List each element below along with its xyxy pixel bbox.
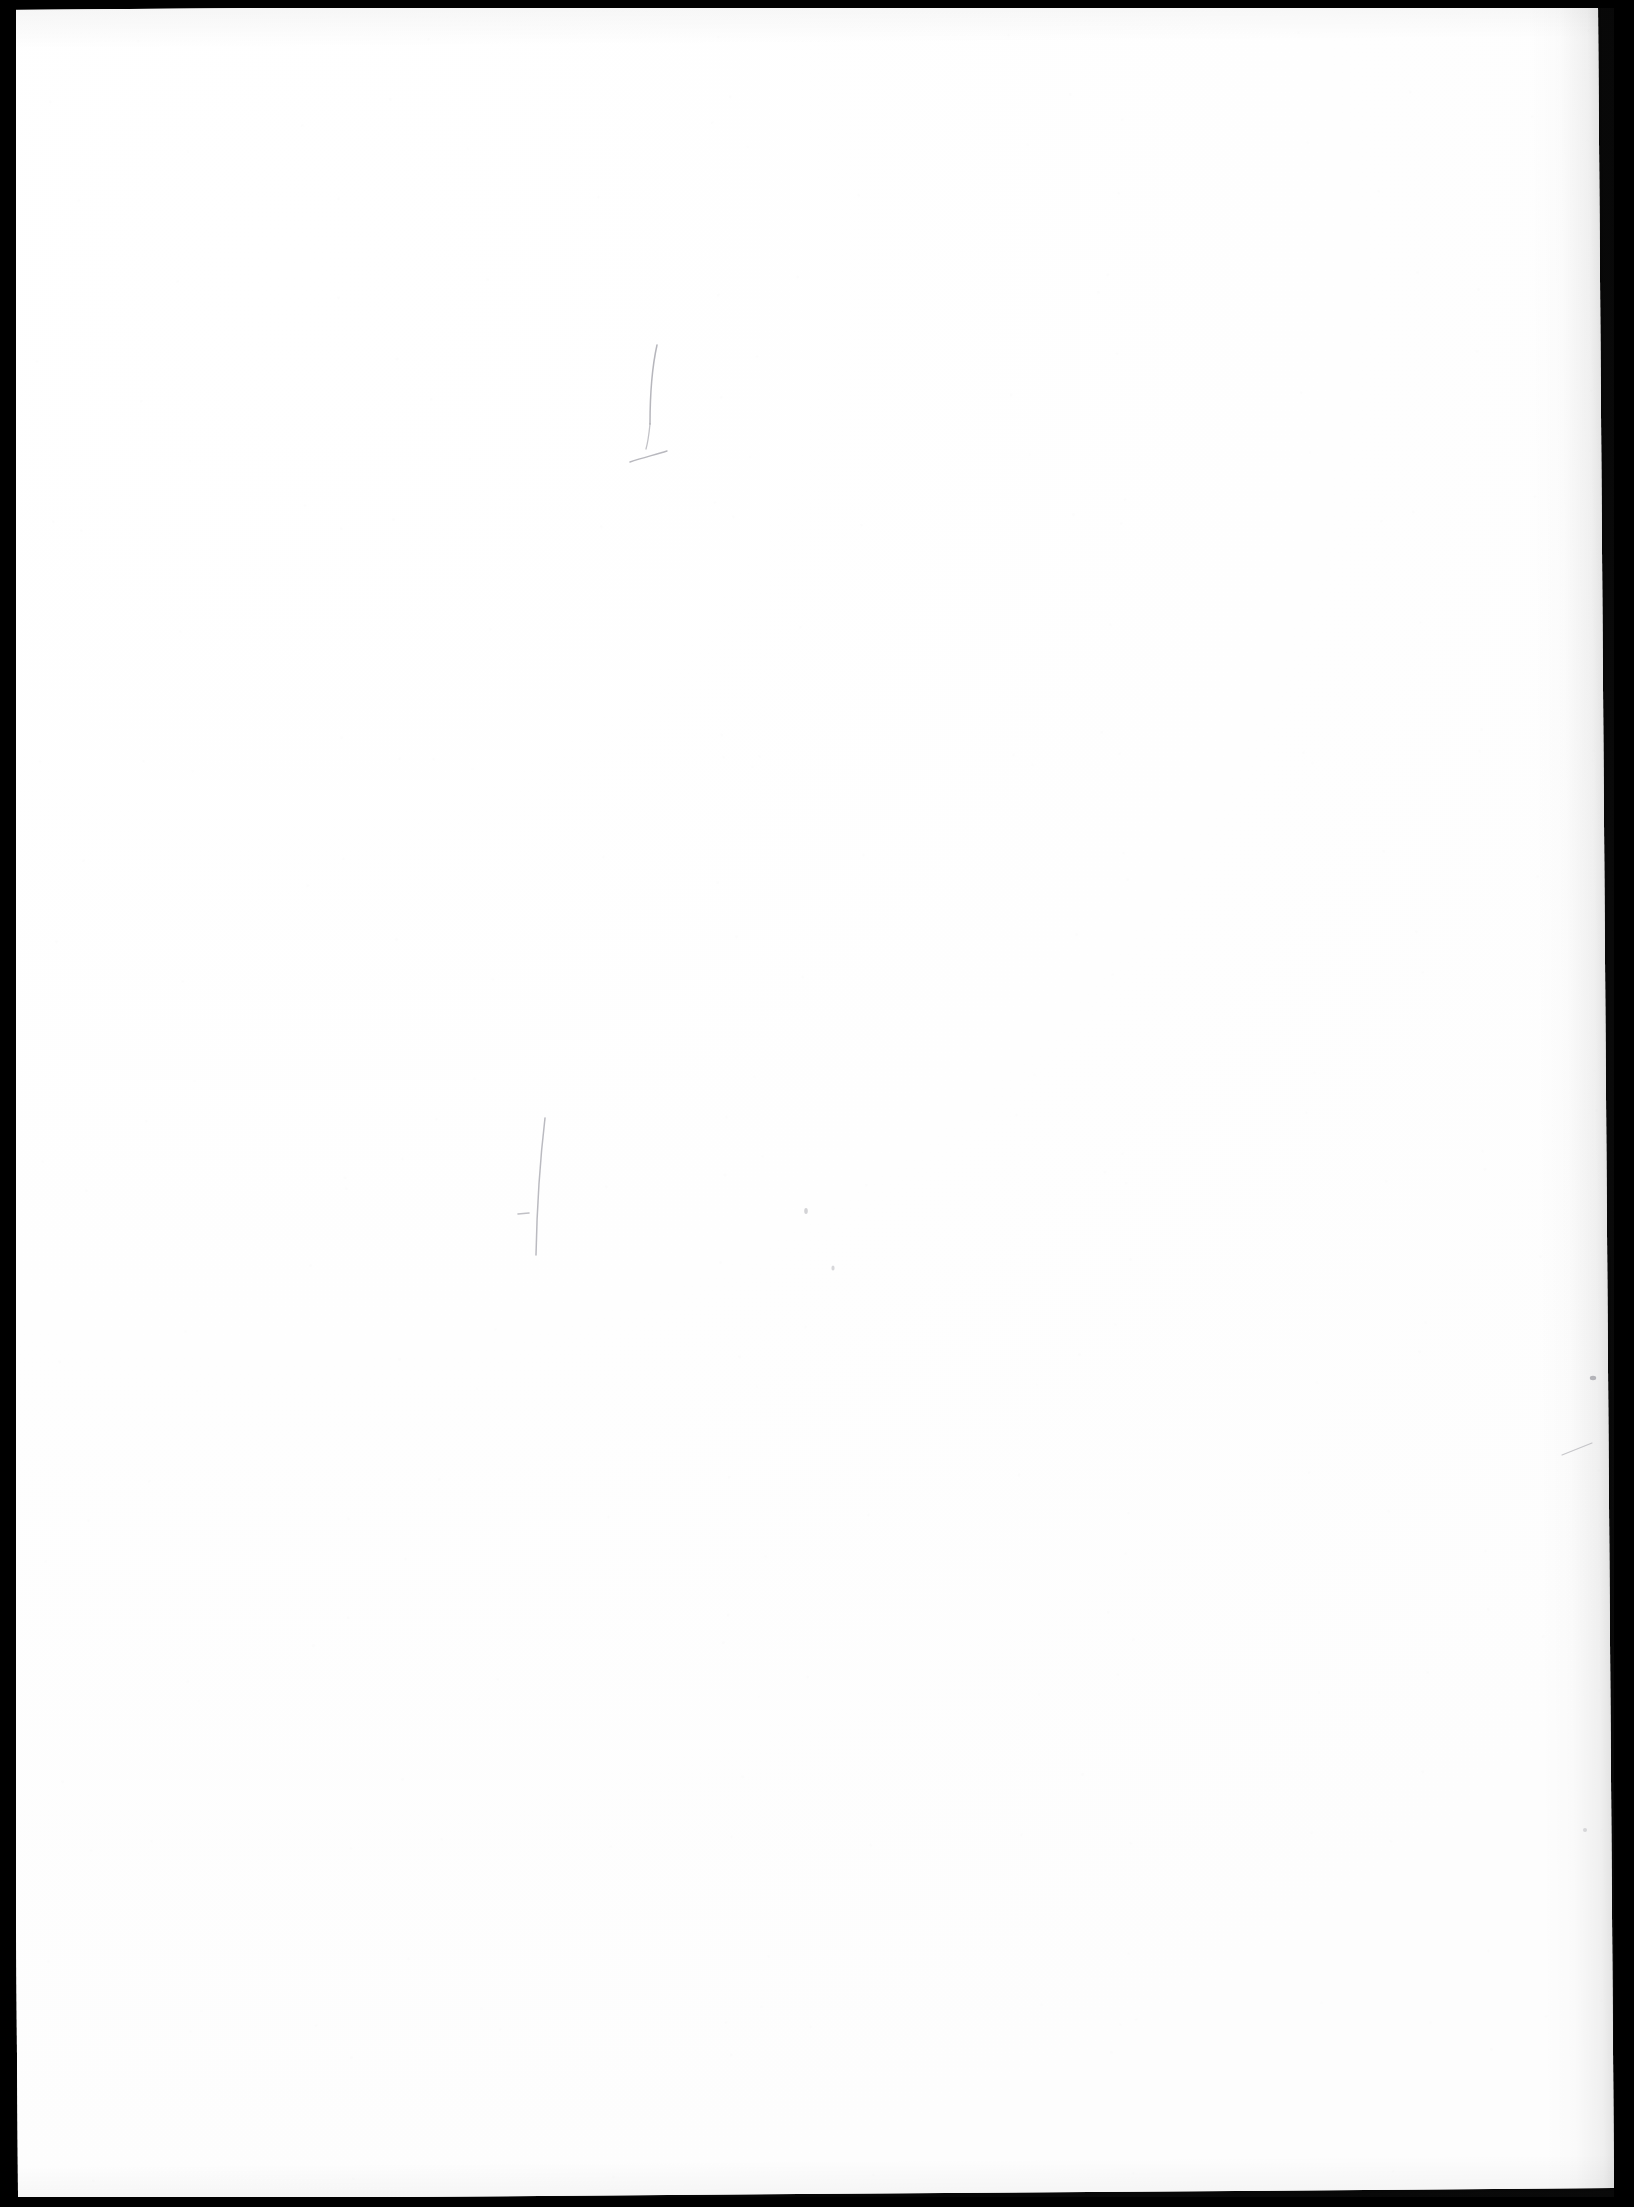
paper-sheet	[2, 0, 1614, 2200]
scanner-border-top	[0, 0, 1634, 8]
scanner-border-left	[0, 0, 16, 2207]
scanner-border-right	[1614, 0, 1634, 2207]
scanner-border-bottom	[0, 2197, 1634, 2207]
scanned-page-canvas: No printed or legible handwritten text i…	[0, 0, 1634, 2207]
paper-fiber-texture	[2, 0, 1614, 2200]
